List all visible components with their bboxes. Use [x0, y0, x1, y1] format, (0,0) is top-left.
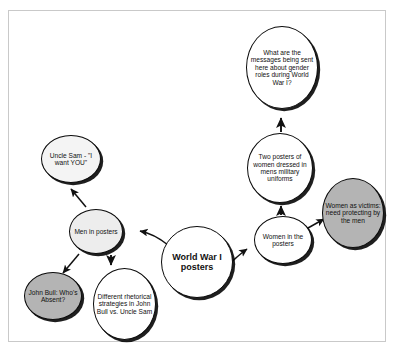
- node-gender-roles-question[interactable]: What are the messages being sent here ab…: [246, 26, 318, 109]
- node-women-in-the-posters[interactable]: Women in the posters: [254, 216, 312, 264]
- node-label: Different rhetorical strategies in John …: [96, 293, 153, 315]
- node-label: John Bull: Who's Absent?: [27, 289, 79, 304]
- node-label: Two posters of women dressed in mens mil…: [250, 153, 310, 183]
- node-label: Uncle Sam - "I want YOU": [44, 152, 98, 167]
- node-women-as-victims[interactable]: Women as victims: need protecting by the…: [322, 178, 384, 248]
- node-men-in-posters[interactable]: Men in posters: [69, 209, 123, 254]
- node-label: World War I posters: [164, 252, 230, 272]
- node-world-war-i-posters[interactable]: World War I posters: [161, 226, 233, 298]
- diagram-canvas: What are the messages being sent here ab…: [0, 0, 399, 357]
- node-john-bull[interactable]: John Bull: Who's Absent?: [24, 272, 82, 320]
- node-different-rhetorical-strategies[interactable]: Different rhetorical strategies in John …: [93, 268, 156, 340]
- node-label: Men in posters: [72, 228, 120, 235]
- node-label: Women as victims: need protecting by the…: [325, 202, 381, 224]
- node-two-posters[interactable]: Two posters of women dressed in mens mil…: [247, 133, 313, 203]
- node-uncle-sam[interactable]: Uncle Sam - "I want YOU": [41, 135, 101, 183]
- node-label: What are the messages being sent here ab…: [249, 49, 315, 86]
- node-label: Women in the posters: [257, 233, 309, 248]
